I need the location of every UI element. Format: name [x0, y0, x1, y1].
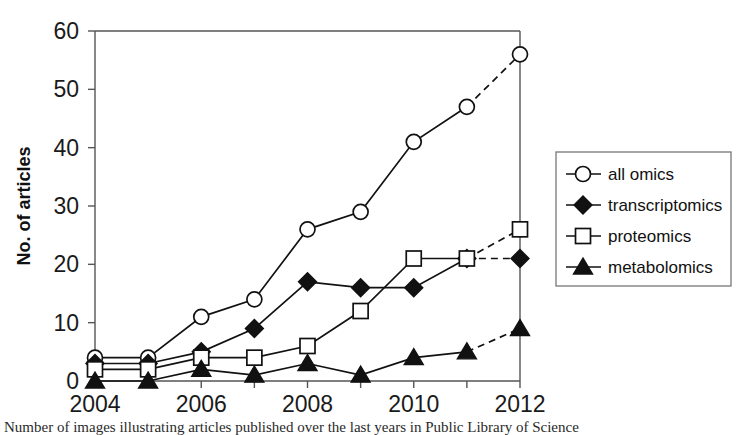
data-point-marker: [352, 279, 370, 297]
y-axis-tick-label: 20: [53, 251, 79, 277]
legend-item-label: transcriptomics: [608, 196, 722, 215]
y-axis-tick-label: 30: [53, 193, 79, 219]
data-point-marker: [511, 320, 530, 336]
line-chart: 0102030405060 20042006200820102012 No. o…: [0, 0, 745, 435]
y-axis-tick-label: 50: [53, 76, 79, 102]
data-point-marker: [457, 343, 476, 359]
legend-sample-marker: [576, 229, 591, 244]
data-point-marker: [298, 355, 317, 371]
data-series-group: [86, 47, 530, 388]
chart-legend: all omicstranscriptomicsproteomicsmetabo…: [556, 152, 731, 286]
data-point-marker: [247, 292, 262, 307]
data-point-marker: [511, 250, 529, 268]
legend-item-label: all omics: [608, 165, 674, 184]
legend-sample-marker: [576, 167, 591, 182]
data-point-marker: [353, 204, 368, 219]
x-axis-tick-label: 2004: [69, 391, 120, 417]
legend-item-all-omics[interactable]: all omics: [566, 165, 674, 184]
x-axis-tick-label: 2012: [494, 391, 545, 417]
y-axis-tick-label: 60: [53, 18, 79, 44]
legend-item-proteomics[interactable]: proteomics: [566, 227, 691, 246]
series-all-omics: [88, 47, 528, 365]
data-point-marker: [513, 222, 528, 237]
x-axis-tick-label: 2006: [176, 391, 227, 417]
data-point-marker: [247, 350, 262, 365]
series-line-solid: [95, 259, 467, 364]
data-point-marker: [405, 279, 423, 297]
figure-caption-text: Number of images illustrating articles p…: [4, 421, 579, 435]
y-axis: 0102030405060: [53, 18, 520, 394]
x-axis-tick-label: 2008: [282, 391, 333, 417]
y-axis-tick-label: 40: [53, 135, 79, 161]
series-line-dashed: [467, 54, 520, 107]
data-point-marker: [459, 99, 474, 114]
y-axis-tick-label: 10: [53, 310, 79, 336]
figure-caption: Number of images illustrating articles p…: [0, 421, 745, 435]
y-axis-title-text: No. of articles: [14, 146, 34, 265]
x-axis-tick-label: 2010: [388, 391, 439, 417]
legend-item-label: metabolomics: [608, 258, 713, 277]
data-point-marker: [406, 134, 421, 149]
data-point-marker: [194, 309, 209, 324]
data-point-marker: [300, 222, 315, 237]
data-point-marker: [406, 251, 421, 266]
figure-container: 0102030405060 20042006200820102012 No. o…: [0, 0, 745, 435]
data-point-marker: [513, 47, 528, 62]
legend-item-label: proteomics: [608, 227, 691, 246]
data-point-marker: [353, 304, 368, 319]
data-point-marker: [300, 339, 315, 354]
y-axis-title: No. of articles: [14, 146, 34, 265]
data-point-marker: [459, 251, 474, 266]
